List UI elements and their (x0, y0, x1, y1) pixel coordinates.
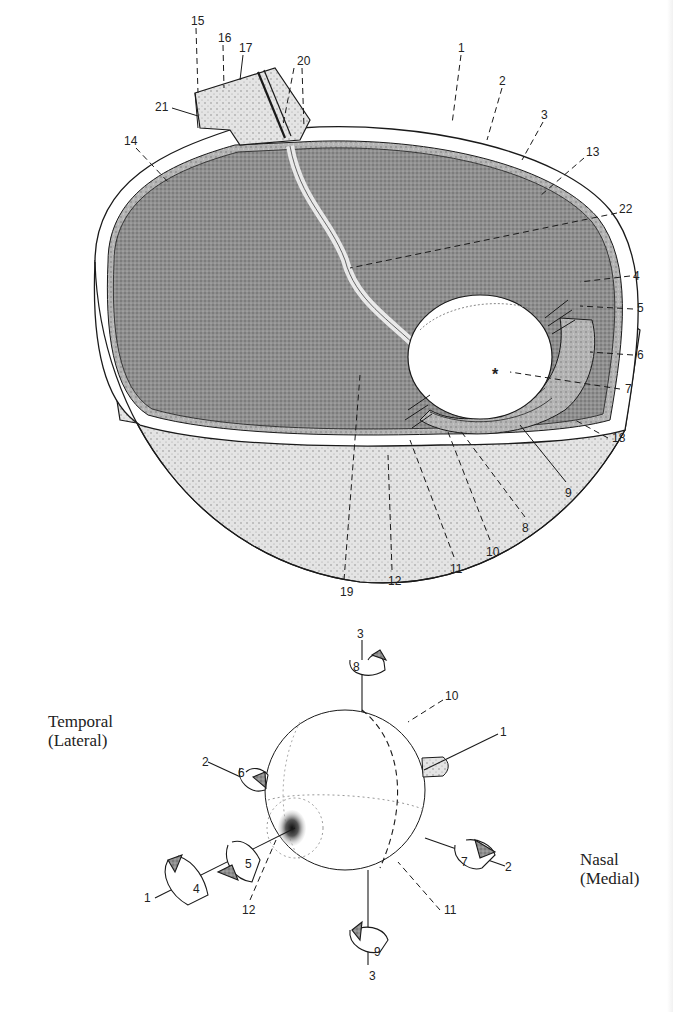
label-2: 2 (499, 75, 506, 87)
eye-cross-section-illustration (0, 0, 673, 1012)
rotation-arrow-4-icon (165, 855, 208, 905)
scan-edge-shadow (667, 0, 673, 1012)
label-5: 5 (637, 302, 644, 314)
label-12: 12 (388, 575, 401, 587)
label-10: 10 (486, 546, 499, 558)
label-b2-right: 2 (505, 861, 512, 873)
label-22: 22 (619, 203, 632, 215)
label-b3-top: 3 (357, 628, 364, 640)
rotation-arrow-9-icon (350, 922, 388, 953)
label-b5: 5 (245, 858, 252, 870)
label-1: 1 (458, 42, 465, 54)
optic-nerve (195, 68, 310, 145)
label-8: 8 (522, 522, 529, 534)
label-4: 4 (633, 270, 640, 282)
label-b8: 8 (353, 661, 360, 673)
label-b1-right: 1 (500, 726, 507, 738)
rotation-arrow-5-icon (218, 841, 260, 882)
label-3: 3 (541, 109, 548, 121)
label-6: 6 (637, 349, 644, 361)
label-b2-left: 2 (202, 756, 209, 768)
label-14: 14 (124, 135, 137, 147)
label-11: 11 (450, 563, 462, 575)
label-b10: 10 (445, 690, 458, 702)
label-b12: 12 (242, 904, 255, 916)
label-b9: 9 (374, 946, 381, 958)
label-21: 21 (155, 101, 168, 113)
label-b11: 11 (444, 904, 456, 916)
temporal-lateral-label: Temporal (Lateral) (48, 712, 113, 750)
anatomy-figure: 1 2 3 13 22 4 5 6 7 18 9 8 10 11 12 19 1… (0, 0, 673, 1012)
pupil (278, 810, 306, 846)
label-17: 17 (239, 42, 252, 54)
label-b6: 6 (238, 767, 245, 779)
globe-outline (265, 710, 425, 870)
label-20: 20 (297, 55, 310, 67)
label-b1-left: 1 (144, 892, 151, 904)
label-b7: 7 (461, 856, 468, 868)
lens (408, 295, 552, 419)
label-16: 16 (218, 32, 231, 44)
label-9: 9 (565, 487, 572, 499)
label-b3-bottom: 3 (369, 970, 376, 982)
label-b4: 4 (193, 883, 200, 895)
label-7: 7 (625, 383, 632, 395)
label-19: 19 (340, 586, 353, 598)
label-15: 15 (191, 15, 204, 27)
label-13: 13 (586, 146, 599, 158)
nasal-medial-label: Nasal (Medial) (580, 850, 639, 888)
label-asterisk: * (492, 367, 498, 383)
label-18: 18 (612, 432, 625, 444)
